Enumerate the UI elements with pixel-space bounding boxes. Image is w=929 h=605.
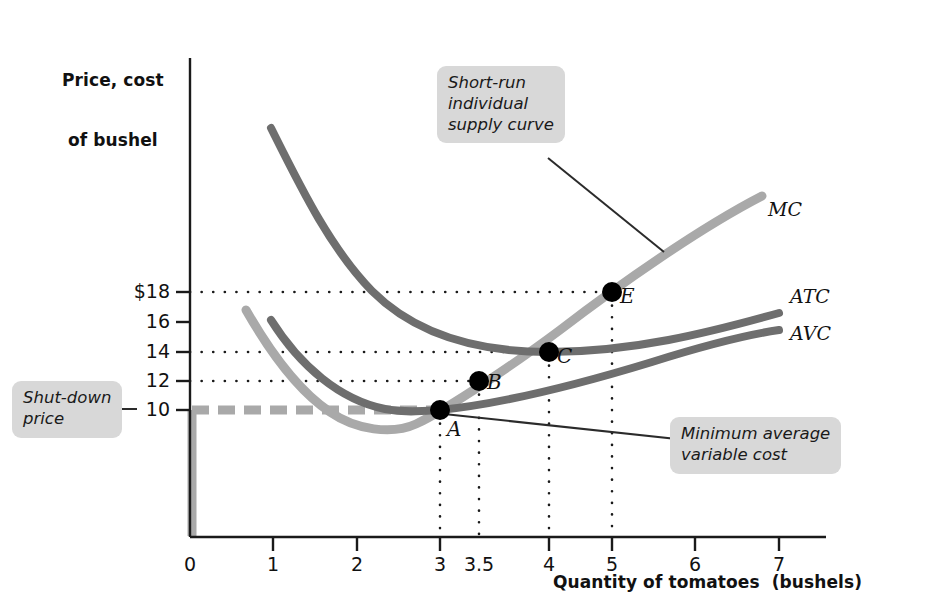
x-tick-label-1: 1: [253, 553, 293, 575]
y-tick-label-14: 14: [108, 340, 170, 362]
min-avc-callout: Minimum average variable cost: [670, 417, 841, 474]
x-tick-label-3: 3: [420, 553, 460, 575]
data-point-label-c: C: [557, 345, 572, 369]
data-point-e[interactable]: [602, 282, 622, 302]
data-point-label-b: B: [487, 371, 502, 395]
y-tick-label-18: $18: [108, 280, 170, 302]
x-tick-label-7: 7: [759, 553, 799, 575]
mc-curve-label: MC: [768, 198, 802, 220]
y-tick-label-16: 16: [108, 310, 170, 332]
y-tick-marks: [176, 292, 190, 410]
shutdown-price-callout: Shut-down price: [12, 381, 122, 438]
x-tick-label-4: 4: [529, 553, 569, 575]
y-axis-title-line1: Price, cost: [62, 70, 164, 90]
data-point-label-a: A: [447, 418, 461, 442]
data-point-c[interactable]: [539, 342, 559, 362]
gridline-group-vertical: [440, 294, 612, 536]
x-tick-marks: [273, 537, 779, 551]
x-tick-label-0: 0: [170, 553, 210, 575]
data-point-label-e: E: [620, 285, 635, 309]
y-axis-title: Price, cost of bushel: [62, 30, 164, 190]
data-point-b[interactable]: [469, 371, 489, 391]
atc-curve-label: ATC: [790, 285, 830, 307]
supply-callout-leader-line: [548, 158, 664, 252]
atc-curve: [271, 128, 779, 352]
supply-curve-callout: Short-run individual supply curve: [437, 66, 565, 143]
x-tick-label-2: 2: [337, 553, 377, 575]
x-tick-label-3p5: 3.5: [455, 553, 503, 575]
figure-canvas: Price, cost of bushel Quantity of tomato…: [0, 0, 929, 605]
y-axis-title-line2: of bushel: [62, 130, 164, 150]
x-tick-label-5: 5: [592, 553, 632, 575]
avc-curve-label: AVC: [790, 322, 831, 344]
x-tick-label-6: 6: [675, 553, 715, 575]
